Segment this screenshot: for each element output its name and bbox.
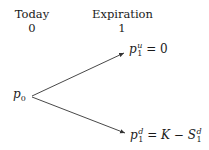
node-up: pu1 = 0: [129, 42, 168, 57]
up-rhs: 0: [160, 42, 168, 56]
node-down: pd1 = K − Sd1: [130, 128, 202, 143]
down-rhs-k: K: [161, 128, 170, 142]
root-base: p: [13, 87, 21, 101]
root-sub: 0: [21, 94, 26, 103]
down-rhs-s-sub: 1: [196, 136, 201, 144]
up-eq: =: [146, 42, 156, 56]
node-root: p0: [13, 88, 26, 100]
down-eq: =: [147, 128, 157, 142]
edge-down-arrow: [32, 97, 125, 133]
up-base: p: [129, 42, 137, 56]
up-sub: 1: [137, 50, 142, 58]
down-minus: −: [174, 128, 184, 142]
down-sub: 1: [138, 136, 143, 144]
edge-up-arrow: [32, 53, 124, 96]
down-base: p: [130, 128, 138, 142]
down-rhs-s: S: [188, 128, 196, 142]
